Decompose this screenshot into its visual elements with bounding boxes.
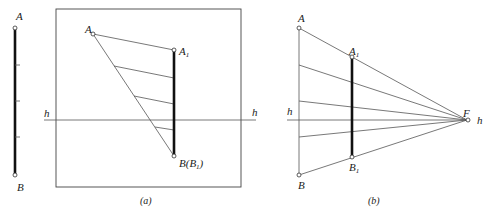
ray-division-f	[299, 101, 467, 120]
ray-division-f	[299, 65, 467, 120]
ray-a-f	[299, 28, 467, 120]
line-a-b	[93, 34, 174, 156]
picture-plane-frame	[56, 9, 241, 187]
point-b1	[350, 155, 354, 159]
division-line	[134, 96, 174, 104]
label-b-b1: B(B1)	[179, 157, 204, 171]
division-line	[155, 127, 174, 130]
label-a1: A1	[348, 45, 359, 59]
label-b: B	[298, 179, 305, 191]
label-a1: A1	[178, 45, 189, 59]
segment-ab-standalone: A B	[13, 10, 24, 193]
point-b	[297, 173, 301, 177]
figure-a: h h A A1 B(B1) (a)	[44, 9, 258, 207]
diagram-canvas: A B h h A A1 B(B1) (a) h h	[0, 0, 487, 217]
point-a	[297, 26, 301, 30]
label-f: F	[462, 107, 470, 119]
line-a-a1	[93, 34, 174, 50]
point-b-b1	[172, 154, 176, 158]
label-a: A	[84, 23, 92, 35]
division-line	[114, 66, 174, 78]
figure-b: h h A A1 B B1 F (b)	[287, 12, 483, 207]
point-a1	[172, 48, 176, 52]
point-a	[13, 26, 17, 30]
label-b1: B1	[349, 161, 359, 175]
caption-b: (b)	[368, 195, 380, 207]
caption-a: (a)	[140, 195, 152, 207]
label-a: A	[15, 10, 23, 22]
label-h-right: h	[252, 106, 258, 118]
label-h-right: h	[477, 114, 483, 126]
label-h-left: h	[287, 105, 293, 117]
label-b: B	[17, 181, 24, 193]
label-a: A	[297, 12, 305, 24]
label-h-left: h	[44, 107, 50, 119]
point-b	[13, 173, 17, 177]
